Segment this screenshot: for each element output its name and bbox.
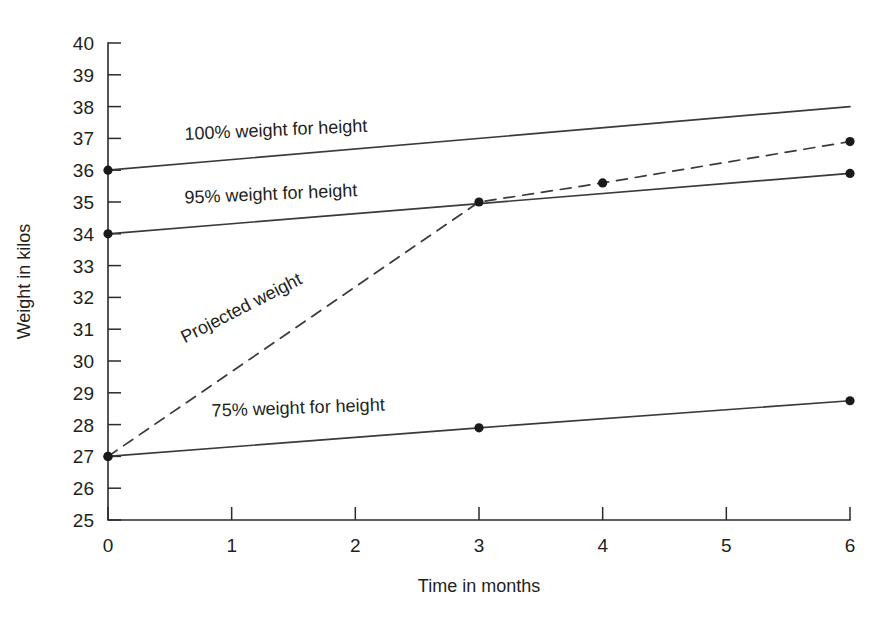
chart-canvas: 25262728293031323334353637383940 0123456… — [0, 0, 889, 618]
y-tick-label: 25 — [73, 510, 94, 531]
data-point-marker — [598, 178, 607, 187]
x-tick-label: 3 — [474, 535, 485, 556]
x-tick-label: 6 — [845, 535, 856, 556]
y-tick-label: 31 — [73, 319, 94, 340]
y-tick-label: 40 — [73, 33, 94, 54]
data-point-marker — [845, 137, 854, 146]
y-tick-label: 26 — [73, 478, 94, 499]
data-point-marker — [103, 229, 112, 238]
data-point-marker — [845, 169, 854, 178]
y-tick-label: 37 — [73, 128, 94, 149]
y-tick-label: 32 — [73, 287, 94, 308]
x-tick-label: 1 — [226, 535, 237, 556]
y-tick-label: 33 — [73, 256, 94, 277]
x-tick-label: 0 — [103, 535, 114, 556]
data-point-marker — [103, 166, 112, 175]
y-tick-label: 27 — [73, 446, 94, 467]
y-tick-label: 38 — [73, 97, 94, 118]
data-point-marker — [474, 423, 483, 432]
weight-for-height-line-chart: 25262728293031323334353637383940 0123456… — [0, 0, 889, 618]
x-axis-title: Time in months — [418, 576, 540, 596]
y-tick-label: 34 — [73, 224, 95, 245]
x-tick-label: 5 — [721, 535, 732, 556]
y-tick-label: 36 — [73, 160, 94, 181]
x-tick-label: 4 — [597, 535, 608, 556]
data-point-marker — [103, 452, 112, 461]
y-tick-label: 29 — [73, 383, 94, 404]
y-tick-label: 39 — [73, 65, 94, 86]
y-tick-label: 28 — [73, 415, 94, 436]
y-tick-label: 30 — [73, 351, 94, 372]
y-axis-title: Weight in kilos — [14, 224, 34, 340]
data-point-marker — [845, 396, 854, 405]
x-tick-label: 2 — [350, 535, 361, 556]
y-tick-label: 35 — [73, 192, 94, 213]
data-point-marker — [474, 197, 483, 206]
plot-background — [0, 0, 889, 618]
